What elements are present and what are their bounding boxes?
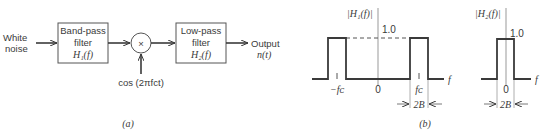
h1-level-label: 1.0 bbox=[382, 24, 396, 35]
h1-f-axis-label: f bbox=[448, 74, 452, 85]
bandpass-line1: Band-pass bbox=[60, 25, 106, 36]
input-label-white: White bbox=[3, 32, 27, 43]
bandpass-line3: H₁(f) bbox=[72, 49, 94, 61]
h1-tick-pos-label: fᴄ bbox=[415, 84, 423, 95]
output-label: Output bbox=[251, 38, 280, 49]
h2-plot: |H₂(f)| 1.0 0 f 2B bbox=[475, 8, 539, 110]
caption-b: (b) bbox=[419, 118, 431, 130]
input-label-noise: noise bbox=[5, 43, 28, 54]
lowpass-line1: Low-pass bbox=[181, 25, 222, 36]
panel-a: White noise Band-pass filter H₁(f) × cos… bbox=[3, 23, 280, 130]
h2-tick-zero-label: 0 bbox=[503, 84, 509, 95]
lowpass-line3: H₂(f) bbox=[190, 49, 212, 61]
lowpass-line2: filter bbox=[192, 37, 210, 48]
caption-a: (a) bbox=[122, 118, 134, 130]
h2-bandwidth-label: 2B bbox=[500, 99, 511, 110]
output-signal-label: n(t) bbox=[257, 49, 272, 61]
h1-axis-label: |H₁(f)| bbox=[347, 8, 373, 20]
oscillator-label: cos (2πfᴄt) bbox=[118, 77, 164, 88]
h1-tick-zero-label: 0 bbox=[375, 84, 381, 95]
h1-tick-neg-label: −fᴄ bbox=[330, 84, 345, 95]
bandpass-line2: filter bbox=[74, 37, 92, 48]
diagram-canvas: White noise Band-pass filter H₁(f) × cos… bbox=[0, 0, 551, 135]
h2-axis-label: |H₂(f)| bbox=[475, 8, 501, 20]
h2-f-axis-label: f bbox=[535, 74, 539, 85]
h2-level-label: 1.0 bbox=[510, 28, 524, 39]
multiply-icon: × bbox=[138, 38, 144, 49]
h1-plot: |H₁(f)| 1.0 −fᴄ 0 fᴄ f 2B bbox=[312, 8, 452, 110]
h1-bandwidth-label: 2B bbox=[413, 99, 424, 110]
